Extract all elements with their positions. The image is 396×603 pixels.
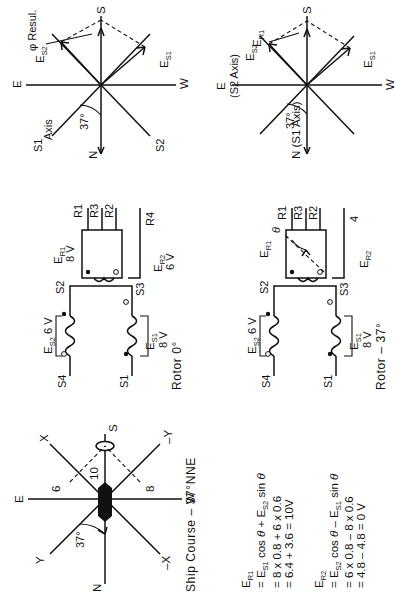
er1-l1-asub: S1	[262, 561, 271, 570]
figure-phasor-rotor0: N E W S S1 Axis S2 37° ES2	[8, 10, 194, 160]
stator-link	[274, 286, 336, 296]
equation-er2: ER2 = ES2 cos θ – ES1 sin θ = 6 x 0.8 – …	[313, 408, 368, 588]
label-r3: R3	[292, 206, 304, 220]
er2-l1-theta1: θ	[328, 531, 340, 537]
er2-symbol: E	[313, 580, 325, 588]
label-er1: ER1	[251, 30, 266, 47]
er2-l1-a: = E	[328, 570, 340, 588]
value-es1: 8 V	[157, 331, 169, 348]
stator-winding-s4-s2	[266, 296, 279, 376]
label-r4: 4	[348, 216, 360, 222]
label-r1: R1	[72, 204, 84, 218]
label-angle-37: 37°	[284, 112, 296, 129]
label-angle-37: 37°	[74, 531, 86, 548]
rotor-assembly	[82, 208, 140, 282]
equation-er2-line2: = 6 x 0.8 – 8 x 0.6	[343, 408, 355, 588]
label-es1: ES1	[158, 51, 173, 68]
label-north: N	[91, 584, 103, 592]
label-angle-37: 37°	[78, 113, 90, 130]
label-south: S	[95, 6, 107, 14]
label-theta: θ	[270, 227, 282, 233]
label-es2: ES2	[246, 337, 261, 354]
label-r2: R2	[103, 204, 115, 218]
label-north: N	[87, 151, 99, 159]
label-s4: S4	[56, 375, 68, 388]
label-south: S	[301, 6, 313, 14]
caption-text: Ship Course – 37°NNE	[184, 392, 198, 592]
figure-circuit-rotor-0: S1 S3 ES1 8 V S4 S2 ES2 6 V 6 V	[36, 200, 186, 390]
label-axis-nx: –X	[160, 556, 172, 570]
label-s1-axis: S1	[32, 139, 44, 152]
label-s2: S2	[258, 281, 270, 294]
es1-bracket	[140, 316, 148, 356]
er1-l1-theta1: θ	[255, 531, 267, 537]
equation-er1-line2: = 8 x 0.8 + 6 x 0.6	[271, 408, 283, 588]
er1-l1-d: sin	[255, 480, 267, 501]
label-east: E	[13, 495, 25, 503]
value-y-component: 6	[50, 486, 62, 492]
value-er2: 6 V	[164, 253, 176, 270]
es1-bracket	[344, 316, 352, 356]
ship-marker	[98, 482, 112, 522]
label-south: S	[107, 424, 119, 432]
er2-l1-csub: S1	[334, 501, 343, 510]
label-east-axis: (S2 Axis)	[228, 54, 240, 98]
label-er1: ER1	[258, 241, 273, 258]
vector-es1	[307, 48, 350, 85]
value-er1: 8 V	[64, 245, 76, 262]
figure-phasor-rotor37: N (S1 Axis) E (S2 Axis) W S 37° ES2 ES1	[214, 10, 396, 160]
stator-winding-s1-s3	[328, 296, 341, 376]
label-r2: R2	[307, 206, 319, 220]
er2-l1-asub: S2	[334, 561, 343, 570]
label-s1-axis-2: Axis	[42, 119, 54, 140]
er2-l1-d: sin	[328, 480, 340, 501]
er1-symbol: E	[240, 580, 252, 588]
figure-ship-course: N E W S Y X –X –Y 37° 6	[12, 416, 198, 592]
label-s2: S2	[54, 281, 66, 294]
label-west: W	[178, 78, 190, 89]
caption-text: Rotor – 37°	[374, 250, 388, 390]
er1-l1-c: + E	[255, 510, 267, 531]
equation-er2-lhs: ER2	[313, 408, 328, 588]
value-es2: 6 V	[246, 317, 258, 334]
label-es1: ES1	[362, 51, 377, 68]
label-r4: R4	[144, 212, 156, 226]
er2-l1-b: cos	[328, 537, 340, 561]
equation-er1-line1: = ES1 cos θ + ES2 sin θ	[255, 408, 270, 588]
er2-subscript: R2	[319, 571, 328, 581]
figure-circuit-rotor-37: S1 S3 ES1 8 V S4 S2 ES2 6 V	[240, 200, 390, 390]
equation-er1-line3: = 6.4 + 3.6 = 10V	[283, 408, 295, 588]
label-east: E	[11, 80, 23, 88]
label-west: W	[384, 79, 396, 90]
label-axis-ny: –Y	[162, 430, 174, 444]
er1-l1-csub: S2	[262, 501, 271, 510]
stator-link	[70, 286, 132, 296]
er1-l1-theta2: θ	[255, 473, 267, 479]
stator-winding-s1-s3	[124, 296, 137, 376]
label-north: N (S1 Axis)	[290, 101, 302, 159]
label-s1: S1	[118, 375, 130, 388]
value-es1: 8 V	[361, 331, 373, 348]
er1-l1-b: cos	[255, 537, 267, 561]
caption-rotor-0: Rotor 0°	[170, 270, 184, 390]
label-r1: R1	[276, 206, 288, 220]
value-x-component: 8	[144, 486, 156, 492]
equation-er1: ER1 = ES1 cos θ + ES2 sin θ = 8 x 0.8 + …	[240, 408, 295, 588]
label-axis-x: X	[38, 434, 50, 442]
er1-subscript: R1	[246, 571, 255, 581]
value-resultant: 10	[88, 467, 100, 480]
label-s4: S4	[260, 375, 272, 388]
label-east: E	[215, 82, 227, 90]
caption-text: Rotor 0°	[170, 270, 184, 390]
label-s3: S3	[338, 283, 350, 296]
caption-rotor-37: Rotor – 37°	[374, 250, 388, 390]
equation-er2-line3: = 4.8 – 4.8 = 0 V	[355, 408, 367, 588]
diagram-page: N E W S S1 Axis S2 37° ES2	[0, 0, 396, 603]
er2-l1-c: – E	[328, 510, 340, 530]
vector-es2	[269, 44, 307, 85]
equation-er2-line1: = ES2 cos θ – ES1 sin θ	[328, 408, 343, 588]
vector-es1	[101, 47, 145, 85]
vector-es2	[61, 42, 101, 85]
label-resultant: φ Resul.	[26, 10, 38, 51]
label-s1: S1	[322, 375, 334, 388]
